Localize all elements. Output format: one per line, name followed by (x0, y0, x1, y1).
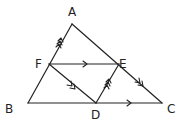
label-c: C (167, 102, 175, 116)
segment-fd (49, 64, 96, 103)
triangle-diagram: A F E B D C (0, 0, 184, 124)
label-e: E (119, 57, 127, 71)
label-b: B (5, 102, 13, 116)
label-a: A (68, 5, 77, 19)
double-arrow-fd-icon (67, 81, 75, 89)
label-d: D (91, 108, 100, 122)
segment-de (96, 64, 119, 103)
label-f: F (35, 57, 42, 71)
